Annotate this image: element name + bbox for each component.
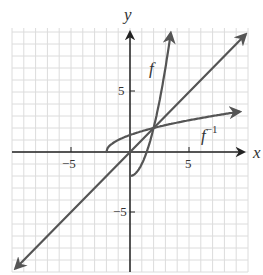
f-inverse-curve	[106, 112, 239, 152]
tick-label-y-neg5: −5	[113, 204, 127, 219]
f-inverse-label-sup: −1	[206, 123, 218, 135]
tick-label-x-neg5: −5	[62, 156, 76, 171]
x-axis-label: x	[252, 143, 261, 162]
function-inverse-chart: y x −5 5 5 −5 f f−1	[0, 0, 263, 275]
y-axis-label: y	[122, 5, 132, 24]
tick-label-y-5: 5	[118, 83, 125, 98]
f-curve	[130, 33, 171, 176]
tick-label-x-5: 5	[185, 156, 192, 171]
f-inverse-label: f−1	[201, 123, 217, 145]
